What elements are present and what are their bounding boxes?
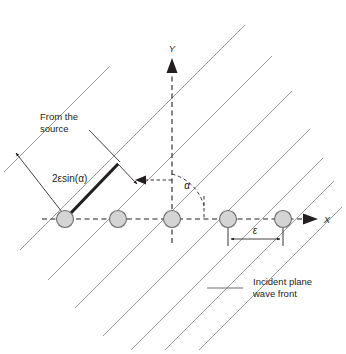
legend-label-line2: wave front	[252, 288, 297, 299]
path-difference-label: 2εsin(α)	[52, 173, 87, 184]
x-axis-label: X	[323, 214, 331, 225]
y-axis-arrowhead	[167, 58, 178, 73]
scatterer-circle	[275, 211, 292, 228]
diagram-canvas: X Y α From the source 2εsin(α)	[0, 0, 346, 354]
wavefront-line	[48, 56, 272, 280]
path-difference-segment	[68, 164, 118, 216]
wavefront-line-group	[4, 25, 342, 350]
x-axis-arrowhead	[303, 214, 318, 225]
wavefront-line	[131, 158, 323, 350]
path-difference-arrow	[117, 163, 137, 184]
scatterer-circle	[110, 211, 127, 228]
diffraction-diagram-figure: X Y α From the source 2εsin(α)	[0, 0, 346, 354]
source-leader-line	[89, 130, 120, 162]
wavefront-line	[165, 181, 334, 350]
scatterer-circle	[220, 211, 237, 228]
source-label-line2: source	[40, 123, 69, 134]
legend-label-line1: Incident plane	[253, 276, 312, 287]
source-label-line1: From the	[40, 111, 78, 122]
spacing-label: ε	[253, 225, 258, 236]
wavefront-line	[20, 25, 245, 250]
y-axis-label: Y	[169, 43, 176, 54]
angle-label: α	[184, 180, 190, 191]
scatterer-circle	[57, 211, 74, 228]
scatterer-circle	[164, 211, 181, 228]
wavefront-line	[103, 129, 310, 336]
